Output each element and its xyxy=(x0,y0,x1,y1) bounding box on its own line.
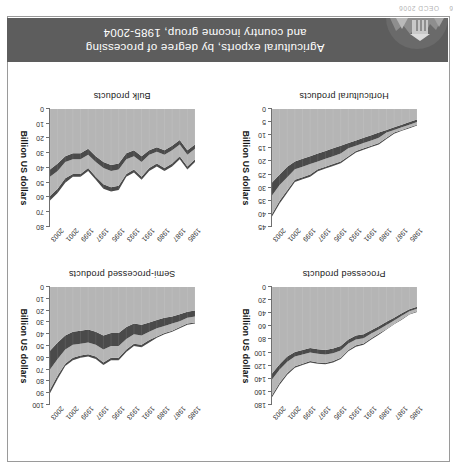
y-axis-tick xyxy=(46,369,50,370)
x-axis-tick-label: 1995 xyxy=(332,405,348,421)
y-axis-tick xyxy=(46,345,50,346)
y-axis-tick-label: 90 xyxy=(36,390,44,397)
chart-panel-bulk: 01020304050607080Billion US dollars19851… xyxy=(9,73,209,253)
y-axis-tick xyxy=(46,123,50,124)
y-axis-tick xyxy=(268,174,272,175)
x-axis-tick-label: 2003 xyxy=(271,405,287,421)
x-axis-tick-label: 1997 xyxy=(95,227,111,243)
y-axis-tick xyxy=(268,352,272,353)
x-axis-tick-label: 2003 xyxy=(49,227,65,243)
y-axis-tick xyxy=(268,108,272,109)
y-axis-tick-label: 40 xyxy=(36,331,44,338)
y-axis-line xyxy=(271,287,272,405)
y-axis-tick xyxy=(46,333,50,334)
x-axis-tick-label: 1989 xyxy=(156,227,172,243)
panel-title: Processed products xyxy=(257,269,431,279)
x-axis-tick-label: 1997 xyxy=(95,405,111,421)
x-axis-tick-label: 1993 xyxy=(348,227,364,243)
x-axis-tick-label: 1987 xyxy=(393,405,409,421)
x-axis-tick-label: 1997 xyxy=(317,227,333,243)
plot-area xyxy=(50,287,195,405)
y-axis-title: Billion US dollars xyxy=(241,131,251,206)
y-axis-tick-label: 25 xyxy=(258,171,266,178)
x-axis-tick-label: 2003 xyxy=(49,405,65,421)
y-axis-tick xyxy=(268,134,272,135)
y-axis-tick xyxy=(268,187,272,188)
y-axis-tick xyxy=(46,138,50,139)
x-axis-tick-label: 1995 xyxy=(110,405,126,421)
x-axis-tick-label: 1993 xyxy=(348,405,364,421)
y-axis-tick xyxy=(268,365,272,366)
x-axis-tick-label: 1995 xyxy=(110,227,126,243)
x-axis-tick-label: 1987 xyxy=(171,227,187,243)
x-axis-tick-label: 1991 xyxy=(141,405,157,421)
figure-frame: OECDLower middle incomeUpper middle inco… xyxy=(7,16,450,462)
x-axis-tick-label: 1995 xyxy=(332,227,348,243)
y-axis-title: Billion US dollars xyxy=(19,131,29,206)
y-axis-tick-label: 40 xyxy=(258,310,266,317)
y-axis-tick-label: 70 xyxy=(36,366,44,373)
x-axis-tick-label: 1985 xyxy=(409,405,425,421)
x-axis-tick-label: 1985 xyxy=(187,405,203,421)
y-axis-tick-label: 80 xyxy=(258,336,266,343)
y-axis-tick-label: 60 xyxy=(36,194,44,201)
y-axis-tick xyxy=(268,160,272,161)
x-axis-tick-label: 1991 xyxy=(141,227,157,243)
x-axis-tick-label: 1985 xyxy=(409,227,425,243)
x-axis-tick-label: 1997 xyxy=(317,405,333,421)
y-axis: 020406080100120140160180Billion US dolla… xyxy=(232,287,272,405)
y-axis-tick-label: 10 xyxy=(36,295,44,302)
y-axis-tick xyxy=(268,325,272,326)
figure-title: Agricultural exports, by degree of proce… xyxy=(20,26,390,55)
y-axis-tick xyxy=(46,152,50,153)
y-axis-tick-label: 10 xyxy=(36,120,44,127)
x-axis-tick-label: 1987 xyxy=(393,227,409,243)
y-axis-tick xyxy=(268,299,272,300)
panel-title: Horticultural products xyxy=(257,91,431,101)
page-number: 6 xyxy=(449,5,453,12)
y-axis-tick-label: 35 xyxy=(258,197,266,204)
y-axis-tick-label: 40 xyxy=(36,165,44,172)
y-axis-tick xyxy=(46,286,50,287)
y-axis-tick-label: 50 xyxy=(36,179,44,186)
y-axis: 01020304050607080Billion US dollars xyxy=(10,109,50,227)
y-axis-tick xyxy=(268,378,272,379)
y-axis-tick-label: 45 xyxy=(258,224,266,231)
y-axis-tick-label: 80 xyxy=(36,378,44,385)
page-footer-source: OECD 2006 xyxy=(399,5,439,12)
y-axis-title: Billion US dollars xyxy=(19,309,29,384)
x-axis-tick-label: 1993 xyxy=(126,227,142,243)
y-axis-tick xyxy=(268,391,272,392)
y-axis-tick-label: 0 xyxy=(262,106,266,113)
y-axis-tick-label: 20 xyxy=(36,135,44,142)
y-axis-tick xyxy=(46,182,50,183)
y-axis-tick xyxy=(46,211,50,212)
figure-title-bar: Agricultural exports, by degree of proce… xyxy=(7,18,448,62)
y-axis-title: Billion US dollars xyxy=(241,309,251,384)
x-axis-tick-label: 2001 xyxy=(286,227,302,243)
y-axis-tick-label: 30 xyxy=(258,184,266,191)
y-axis-tick xyxy=(268,213,272,214)
y-axis-line xyxy=(49,109,50,227)
x-axis-tick-label: 1991 xyxy=(363,405,379,421)
x-axis-tick-label: 1999 xyxy=(302,405,318,421)
plot-area xyxy=(50,109,195,227)
y-axis-tick xyxy=(268,200,272,201)
y-axis-tick-label: 0 xyxy=(40,106,44,113)
chart-panel-semi-processed: 0102030405060708090100Billion US dollars… xyxy=(9,251,209,431)
y-axis-tick-label: 140 xyxy=(254,375,266,382)
x-axis-tick-label: 1991 xyxy=(363,227,379,243)
y-axis-tick-label: 60 xyxy=(36,354,44,361)
y-axis-tick-label: 120 xyxy=(254,362,266,369)
y-axis: 0102030405060708090100Billion US dollars xyxy=(10,287,50,405)
y-axis-tick xyxy=(268,286,272,287)
y-axis-tick-label: 60 xyxy=(258,323,266,330)
plot-area xyxy=(272,287,417,405)
x-axis-tick-label: 1989 xyxy=(378,405,394,421)
y-axis-tick xyxy=(46,298,50,299)
rotated-page-wrapper: OECDLower middle incomeUpper middle inco… xyxy=(0,0,459,468)
y-axis-tick xyxy=(46,310,50,311)
y-axis-tick-label: 100 xyxy=(254,349,266,356)
y-axis-tick-label: 30 xyxy=(36,319,44,326)
x-axis-tick-label: 1989 xyxy=(156,405,172,421)
